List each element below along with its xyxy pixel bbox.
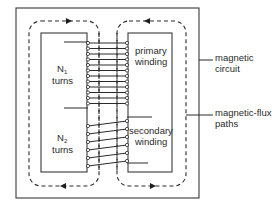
primary-turns-symbol: N1 (57, 63, 68, 75)
magnetic-circuit-label-1: magnetic (215, 52, 254, 63)
primary-winding-label-2: winding (134, 56, 167, 67)
primary-turns-unit: turns (52, 75, 73, 86)
secondary-turns-symbol: N2 (57, 132, 68, 144)
primary-winding (64, 41, 129, 108)
flux-arrow-right-top-icon (144, 18, 150, 24)
primary-winding-label-1: primary (135, 45, 167, 56)
flux-arrow-left-bottom-icon (60, 183, 66, 189)
flux-arrow-right-bottom-icon (150, 183, 156, 189)
secondary-winding-label-1: secondary (129, 125, 173, 136)
flux-arrow-left-top-icon (66, 18, 72, 24)
secondary-turns-unit: turns (52, 144, 73, 155)
flux-paths-label-1: magnetic-flux (215, 107, 272, 118)
magnetic-circuit-label-2: circuit (215, 63, 240, 74)
flux-paths-label-2: paths (215, 118, 238, 129)
transformer-diagram: N1 turns N2 turns primary winding second… (0, 0, 277, 209)
secondary-winding-label-2: winding (134, 136, 167, 147)
